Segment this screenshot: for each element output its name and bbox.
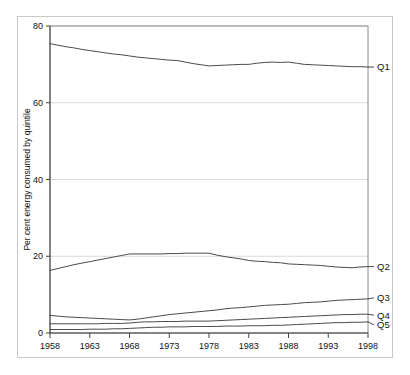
- line-chart: 020406080 195819631968197319781983198819…: [0, 0, 410, 375]
- x-tick-label: 1978: [199, 341, 219, 351]
- series-label-q1: Q1: [377, 61, 390, 72]
- series-leader-q3: [368, 298, 374, 299]
- y-tick-label: 0: [38, 328, 43, 338]
- x-tick-label: 1973: [159, 341, 179, 351]
- x-tick-label: 1963: [80, 341, 100, 351]
- y-axis: 020406080: [33, 21, 50, 338]
- series-line-q2: [50, 253, 368, 270]
- series-leader-q5: [368, 322, 374, 325]
- data-series-group: [50, 44, 368, 330]
- series-line-q5: [50, 322, 368, 330]
- series-line-q3: [50, 299, 368, 320]
- chart-figure: 020406080 195819631968197319781983198819…: [0, 0, 410, 375]
- gridlines: [50, 26, 368, 256]
- x-axis: 195819631968197319781983198819931998: [40, 333, 378, 351]
- series-line-q4: [50, 314, 368, 324]
- y-tick-label: 60: [33, 98, 43, 108]
- y-tick-label: 40: [33, 175, 43, 185]
- x-tick-label: 1998: [358, 341, 378, 351]
- x-tick-label: 1983: [239, 341, 259, 351]
- series-label-q3: Q3: [377, 292, 390, 303]
- x-tick-label: 1968: [119, 341, 139, 351]
- y-tick-label: 20: [33, 251, 43, 261]
- x-tick-label: 1993: [318, 341, 338, 351]
- x-tick-label: 1958: [40, 341, 60, 351]
- series-label-q2: Q2: [377, 261, 390, 272]
- series-leader-q4: [368, 314, 374, 315]
- series-line-q1: [50, 44, 368, 67]
- series-label-group: Q1Q2Q3Q4Q5: [368, 61, 390, 330]
- y-axis-title: Per cent energy consumed by quintile: [22, 108, 32, 250]
- series-label-q5: Q5: [377, 319, 390, 330]
- y-tick-label: 80: [33, 21, 43, 31]
- x-tick-label: 1988: [278, 341, 298, 351]
